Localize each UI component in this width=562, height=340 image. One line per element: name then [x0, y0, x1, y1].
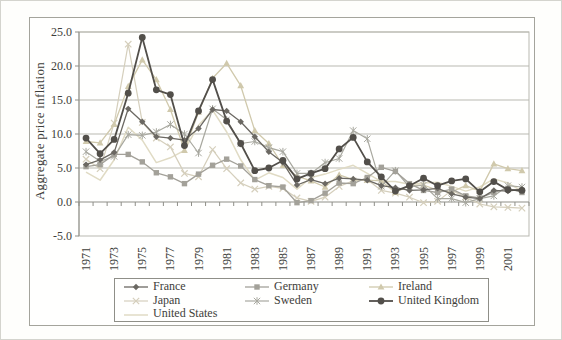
- svg-text:1985: 1985: [276, 247, 290, 271]
- legend-label-sweden: Sweden: [274, 293, 312, 308]
- united-kingdom-series-marker-icon: [369, 295, 393, 305]
- svg-text:10.0: 10.0: [51, 127, 72, 141]
- svg-text:2001: 2001: [501, 247, 515, 271]
- svg-text:1973: 1973: [107, 247, 121, 271]
- legend-item-ireland: Ireland: [369, 280, 488, 293]
- legend-label-japan: Japan: [153, 293, 180, 308]
- legend-item-france: France: [124, 280, 245, 293]
- legend-item-sweden: Sweden: [245, 294, 369, 307]
- svg-text:5.0: 5.0: [57, 161, 72, 175]
- svg-text:1983: 1983: [248, 247, 262, 271]
- svg-text:25.0: 25.0: [51, 25, 72, 39]
- svg-text:15.0: 15.0: [51, 93, 72, 107]
- svg-text:1997: 1997: [445, 247, 459, 271]
- legend-label-united-kingdom: United Kingdom: [398, 293, 479, 308]
- svg-text:-5.0: -5.0: [53, 229, 72, 243]
- legend-label-united-states: United States: [153, 306, 217, 321]
- legend-item-germany: Germany: [245, 280, 369, 293]
- legend-item-united-states: United States: [124, 307, 245, 320]
- germany-series-marker-icon: [245, 281, 269, 291]
- figure-page: 25.020.015.010.05.00.0-5.019711973197519…: [0, 0, 562, 340]
- chart-legend: France Germany Ireland Japan Sweden Unit…: [114, 278, 489, 322]
- svg-text:1981: 1981: [220, 247, 234, 271]
- svg-text:1993: 1993: [388, 247, 402, 271]
- svg-text:1991: 1991: [360, 247, 374, 271]
- japan-series-marker-icon: [124, 295, 148, 305]
- svg-text:20.0: 20.0: [51, 59, 72, 73]
- svg-text:1971: 1971: [79, 247, 93, 271]
- united-states-series-marker-icon: [124, 309, 148, 319]
- svg-text:1989: 1989: [332, 247, 346, 271]
- svg-text:1975: 1975: [135, 247, 149, 271]
- svg-text:1995: 1995: [417, 247, 431, 271]
- svg-text:0.0: 0.0: [57, 195, 72, 209]
- sweden-series-marker-icon: [245, 295, 269, 305]
- y-axis-title: Aggregate price inflation: [32, 46, 48, 216]
- svg-text:1977: 1977: [163, 247, 177, 271]
- legend-item-japan: Japan: [124, 294, 245, 307]
- svg-text:1987: 1987: [304, 247, 318, 271]
- legend-label-france: France: [153, 279, 186, 294]
- ireland-series-marker-icon: [369, 281, 393, 291]
- legend-item-united-kingdom: United Kingdom: [369, 294, 488, 307]
- france-series-marker-icon: [124, 281, 148, 291]
- legend-label-ireland: Ireland: [398, 279, 432, 294]
- svg-text:1979: 1979: [192, 247, 206, 271]
- svg-text:1999: 1999: [473, 247, 487, 271]
- legend-label-germany: Germany: [274, 279, 319, 294]
